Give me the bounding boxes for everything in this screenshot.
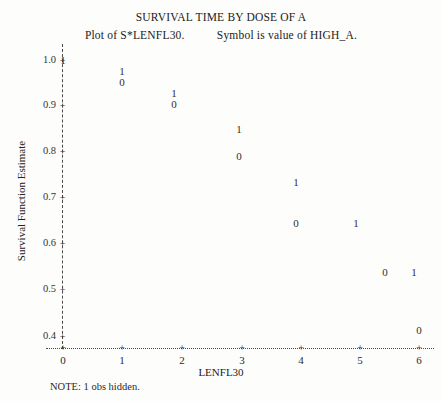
y-tick-label-0-4: 0.4 [43,331,56,340]
x-tick-mark: + [416,342,422,353]
y-tick-0-4: 0.4 + [58,332,67,341]
data-point: 0 [379,266,391,278]
data-point: 1 [350,217,362,229]
x-tick-label-5: 5 [355,356,365,365]
y-axis-title: Survival Function Estimate [15,101,27,301]
y-tick-0-9: 0.9 + [58,101,67,110]
y-tick-label-1-0: 1.0 [43,55,56,64]
data-point: 1 [233,123,245,135]
x-tick-mark: + [119,342,125,353]
x-tick-mark: + [239,342,245,353]
y-tick-mark: + [60,331,66,342]
data-point: 1 [290,176,302,188]
y-tick-label-0-5: 0.5 [43,284,56,293]
y-tick-mark: + [60,284,66,295]
x-tick-mark: + [357,342,363,353]
x-tick-4: + 4 [296,343,306,352]
x-tick-label-1: 1 [117,356,127,365]
plot-page: SURVIVAL TIME BY DOSE OF A Plot of S*LEN… [0,0,442,401]
x-tick-3: + 3 [237,343,247,352]
data-point: 0 [168,98,180,110]
y-tick-0-8: 0.8 + [58,147,67,156]
y-tick-label-0-9: 0.9 [43,100,56,109]
y-tick-mark: + [60,146,66,157]
y-tick-label-0-7: 0.7 [43,192,56,201]
y-tick-0-5: 0.5 + [58,285,67,294]
x-tick-6: + 6 [414,343,424,352]
x-tick-0: + 0 [58,343,68,352]
y-tick-0-7: 0.7 + [58,193,67,202]
data-point: 0 [233,150,245,162]
x-tick-label-6: 6 [414,356,424,365]
y-tick-mark: + [60,100,66,111]
footnote-obs-hidden: NOTE: 1 obs hidden. [50,381,140,392]
y-tick-mark: + [60,238,66,249]
x-tick-label-0: 0 [58,356,68,365]
data-point: 0 [413,324,425,336]
x-tick-1: + 1 [117,343,127,352]
x-tick-5: + 5 [355,343,365,352]
data-point: 0 [290,217,302,229]
x-tick-mark: + [60,342,66,353]
x-tick-mark: + [298,342,304,353]
y-tick-label-0-8: 0.8 [43,146,56,155]
y-tick-label-0-6: 0.6 [43,238,56,247]
y-tick-0-6: 0.6 + [58,239,67,248]
x-tick-label-2: 2 [177,356,187,365]
data-point: 0 [116,76,128,88]
data-point: 1 [57,54,69,66]
data-point: 1 [408,266,420,278]
x-axis-title: LENFL30 [0,366,442,378]
x-tick-2: + 2 [177,343,187,352]
scatter-plot: 1.0 + 0.9 + 0.8 + 0.7 + 0.6 + 0.5 + 0.4 … [0,0,442,401]
x-tick-label-4: 4 [296,356,306,365]
x-tick-label-3: 3 [237,356,247,365]
y-tick-mark: + [60,192,66,203]
x-tick-mark: + [179,342,185,353]
